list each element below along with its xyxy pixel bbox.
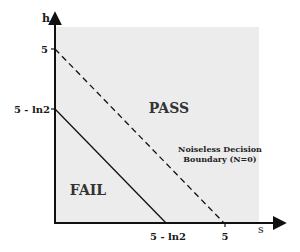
x-tick-label-5: 5 [222,231,229,242]
pass-region-label: PASS [149,100,189,116]
annotation-line-1: Noiseless Decision [178,144,262,154]
y-tick-label-5-ln2: 5 - ln2 [14,104,50,115]
annotation-line-2: Boundary (N=0) [183,154,257,164]
y-axis-label: h [42,12,50,25]
x-axis-label: s [258,223,264,236]
fail-region-label: FAIL [70,182,107,198]
x-tick-label-5-ln2: 5 - ln2 [150,231,186,242]
y-tick-label-5: 5 [41,44,48,55]
decision-boundary-diagram: h s 5 5 - ln2 5 - ln2 5 PASS FAIL Noisel… [0,0,300,252]
